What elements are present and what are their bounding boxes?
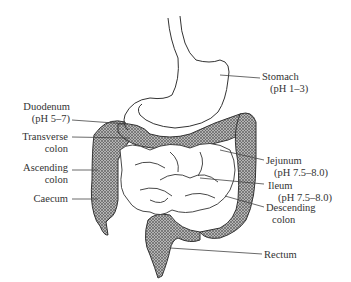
stomach-name: Stomach [262,71,299,82]
jejunum-ph: (pH 7.5–8.0) [266,167,328,179]
duodenum-ph: (pH 5–7) [12,113,70,125]
descending-colon-name: Descending [266,202,316,213]
stomach-ph: (pH 1–3) [262,83,308,95]
label-jejunum: Jejunum (pH 7.5–8.0) [266,155,328,179]
transverse-colon-detail: colon [10,143,68,155]
descending-colon-detail: colon [266,214,316,226]
label-rectum: Rectum [264,249,297,261]
label-duodenum: Duodenum (pH 5–7) [12,101,70,125]
label-ascending-colon: Ascending colon [10,162,68,186]
label-caecum: Caecum [10,193,68,205]
label-ileum: Ileum (pH 7.5–8.0) [268,180,332,204]
label-descending-colon: Descending colon [266,202,316,226]
rectum-name: Rectum [264,249,297,260]
transverse-colon-shape [118,114,254,150]
label-stomach: Stomach (pH 1–3) [262,71,308,95]
jejunum-name: Jejunum [266,155,302,166]
small-intestine [120,143,235,214]
caecum-name: Caecum [34,193,68,204]
ascending-colon-detail: colon [10,174,68,186]
duodenum-name: Duodenum [12,101,70,113]
label-transverse-colon: Transverse colon [10,131,68,155]
transverse-colon-name: Transverse [10,131,68,143]
ileum-name: Ileum [268,180,293,191]
rectum-shape [145,214,200,278]
stomach-shape [124,16,229,130]
ascending-colon-name: Ascending [10,162,68,174]
